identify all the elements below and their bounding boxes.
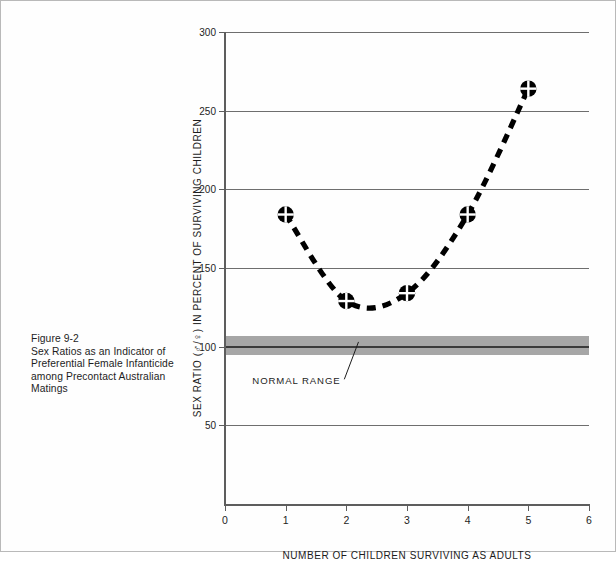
y-axis-title-prefix: SEX RATIO (	[192, 352, 203, 417]
x-tick-mark-2	[346, 504, 347, 511]
y-tick-label-150: 150	[199, 263, 216, 274]
x-tick-mark-0	[225, 504, 226, 511]
normal-range-label: NORMAL RANGE	[252, 375, 340, 386]
x-tick-label-5: 5	[525, 514, 531, 526]
x-tick-label-1: 1	[283, 514, 289, 526]
y-axis-title-suffix: ) IN PERCENT OF SURVIVING CHILDREN	[192, 119, 203, 332]
y-tick-label-300: 300	[199, 27, 216, 38]
x-tick-label-2: 2	[343, 514, 349, 526]
data-point-marker	[459, 206, 475, 222]
data-point-markers	[277, 80, 536, 309]
data-series-line	[286, 89, 529, 308]
x-tick-label-0: 0	[222, 514, 228, 526]
data-series-layer	[225, 32, 589, 504]
female-symbol-icon: ♀	[191, 332, 203, 340]
x-tick-label-3: 3	[404, 514, 410, 526]
x-tick-label-6: 6	[586, 514, 592, 526]
y-tick-label-50: 50	[205, 420, 216, 431]
x-tick-mark-1	[286, 504, 287, 511]
x-axis-title: NUMBER OF CHILDREN SURVIVING AS ADULTS	[225, 550, 589, 561]
data-point-marker	[338, 293, 354, 309]
y-tick-label-200: 200	[199, 184, 216, 195]
x-tick-mark-6	[589, 504, 590, 511]
plot-area: 50100150200250300 0123456 NORMAL RANGE N…	[225, 32, 589, 504]
y-tick-label-250: 250	[199, 105, 216, 116]
data-point-marker	[399, 285, 415, 301]
chart-figure: SEX RATIO (♂/♀) IN PERCENT OF SURVIVING …	[1, 1, 616, 553]
x-tick-mark-5	[528, 504, 529, 511]
data-point-marker	[277, 206, 293, 222]
x-tick-mark-4	[468, 504, 469, 511]
x-tick-mark-3	[407, 504, 408, 511]
data-point-marker	[520, 80, 536, 96]
x-tick-label-4: 4	[465, 514, 471, 526]
y-tick-label-100: 100	[199, 341, 216, 352]
